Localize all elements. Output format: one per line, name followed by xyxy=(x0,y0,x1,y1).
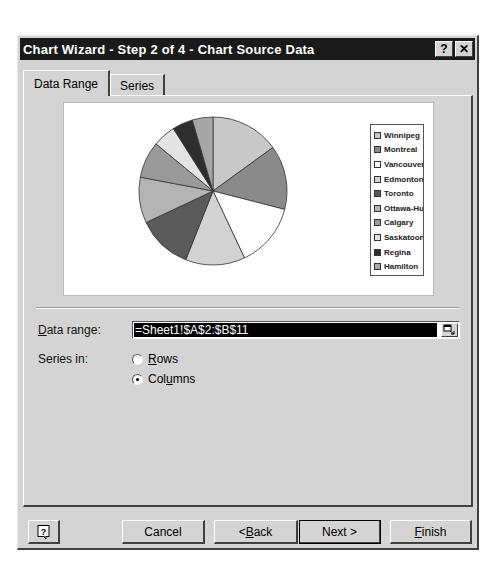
legend-swatch-icon xyxy=(374,146,381,153)
legend-label: Calgary xyxy=(384,218,413,227)
legend-swatch-icon xyxy=(374,205,381,212)
series-in-label: Series in: xyxy=(38,352,88,366)
tab-series[interactable]: Series xyxy=(110,74,165,96)
tab-data-range[interactable]: Data Range xyxy=(23,70,110,96)
help-button[interactable]: ? xyxy=(28,520,60,544)
legend-label: Toronto xyxy=(384,189,414,198)
legend-swatch-icon xyxy=(374,234,381,241)
legend-swatch-icon xyxy=(374,219,381,226)
chart-wizard-dialog: Chart Wizard - Step 2 of 4 - Chart Sourc… xyxy=(17,35,479,550)
question-icon: ? xyxy=(440,42,447,56)
legend-swatch-icon xyxy=(374,176,381,183)
data-range-panel: WinnipegMontrealVancouverEdmontonToronto… xyxy=(23,95,473,507)
legend-label: Regina xyxy=(384,248,411,257)
legend-label: Winnipeg xyxy=(384,131,420,140)
label-text: ack xyxy=(254,525,273,539)
label-text: mns xyxy=(173,372,196,386)
radio-columns-label: Columns xyxy=(148,372,195,386)
chart-preview: WinnipegMontrealVancouverEdmontonToronto… xyxy=(63,102,434,296)
legend-item: Ottawa-Hull xyxy=(374,201,423,216)
accel-char: F xyxy=(414,525,421,539)
legend-item: Saskatoon xyxy=(374,230,423,245)
legend-label: Vancouver xyxy=(384,160,424,169)
title-bar[interactable]: Chart Wizard - Step 2 of 4 - Chart Sourc… xyxy=(20,38,475,60)
legend-item: Hamilton xyxy=(374,259,423,274)
cancel-button[interactable]: Cancel xyxy=(122,520,205,544)
help-bubble-icon: ? xyxy=(36,524,52,540)
help-titlebar-button[interactable]: ? xyxy=(435,41,453,57)
radio-rows-label: Rows xyxy=(148,352,178,366)
legend-swatch-icon xyxy=(374,161,381,168)
close-icon: ✕ xyxy=(459,42,469,56)
legend-label: Hamilton xyxy=(384,262,418,271)
legend-item: Calgary xyxy=(374,216,423,231)
svg-text:?: ? xyxy=(40,526,46,536)
legend-item: Vancouver xyxy=(374,157,423,172)
data-range-input[interactable]: =Sheet1!$A$2:$B$11 xyxy=(132,321,460,339)
pie-chart xyxy=(137,115,289,267)
legend-label: Saskatoon xyxy=(384,233,424,242)
legend-item: Montreal xyxy=(374,143,423,158)
label-text: ows xyxy=(157,352,178,366)
legend-swatch-icon xyxy=(374,190,381,197)
radio-rows-button[interactable] xyxy=(132,354,143,365)
data-range-value[interactable]: =Sheet1!$A$2:$B$11 xyxy=(134,323,437,337)
radio-columns-button[interactable] xyxy=(132,374,143,385)
collapse-dialog-button[interactable] xyxy=(441,323,458,337)
legend-item: Winnipeg xyxy=(374,128,423,143)
range-select-icon xyxy=(442,324,457,336)
legend-swatch-icon xyxy=(374,263,381,270)
label-text: inish xyxy=(422,525,447,539)
legend-swatch-icon xyxy=(374,249,381,256)
tab-strip: Data Range Series xyxy=(23,70,165,96)
legend-label: Ottawa-Hull xyxy=(384,204,424,213)
label-text: < xyxy=(239,525,246,539)
data-range-label: Data range: xyxy=(38,323,101,337)
separator xyxy=(36,307,459,309)
legend-label: Edmonton xyxy=(384,175,424,184)
back-button[interactable]: < Back xyxy=(214,520,298,544)
next-button[interactable]: Next > xyxy=(299,520,381,544)
radio-rows[interactable]: Rows xyxy=(132,352,178,366)
finish-button[interactable]: Finish xyxy=(390,520,472,544)
accel-char: D xyxy=(38,323,47,337)
label-text: ata range: xyxy=(47,323,101,337)
chart-legend: WinnipegMontrealVancouverEdmontonToronto… xyxy=(370,124,424,276)
accel-char: B xyxy=(246,525,254,539)
legend-item: Edmonton xyxy=(374,172,423,187)
label-text: Col xyxy=(148,372,166,386)
legend-item: Regina xyxy=(374,245,423,260)
accel-char: R xyxy=(148,352,157,366)
legend-item: Toronto xyxy=(374,186,423,201)
legend-swatch-icon xyxy=(374,132,381,139)
legend-label: Montreal xyxy=(384,145,417,154)
radio-columns[interactable]: Columns xyxy=(132,372,195,386)
close-button[interactable]: ✕ xyxy=(455,41,473,57)
dialog-title: Chart Wizard - Step 2 of 4 - Chart Sourc… xyxy=(23,42,435,57)
accel-char: u xyxy=(166,372,173,386)
